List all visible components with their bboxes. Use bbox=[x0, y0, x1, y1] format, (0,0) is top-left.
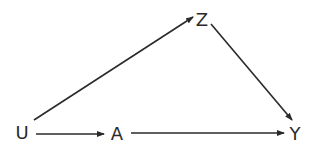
edge-u-to-z bbox=[34, 17, 193, 120]
node-u: U bbox=[15, 124, 28, 142]
edges-layer bbox=[0, 0, 317, 150]
node-y: Y bbox=[290, 125, 301, 143]
node-a: A bbox=[111, 125, 123, 143]
edge-z-to-y bbox=[211, 24, 292, 120]
dag-diagram: U A Z Y bbox=[0, 0, 317, 150]
node-z: Z bbox=[196, 11, 208, 29]
